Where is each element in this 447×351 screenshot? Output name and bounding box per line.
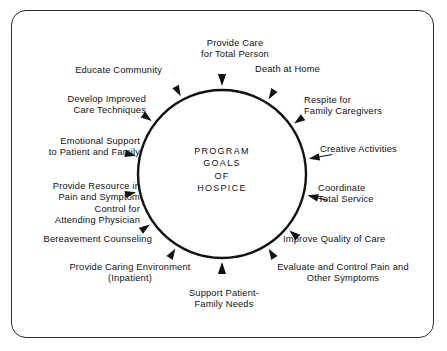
arrow-provide-care-total-person [218,74,226,86]
goal-label-provide-resource-pain-symptom: Provide Resource in Pain and Symptom Con… [20,181,140,227]
goal-label-death-at-home: Death at Home [255,64,365,75]
arrow-educate-community [172,85,180,96]
goal-label-improve-quality-of-care: Improve Quality of Care [283,234,425,245]
goal-label-emotional-support-patient-family: Emotional Support to Patient and Family [14,136,140,159]
arrow-evaluate-control-pain [269,249,278,260]
center-label: PROGRAM GOALS OF HOSPICE [162,145,282,195]
goal-label-provide-care-total-person: Provide Care for Total Person [180,38,290,61]
goal-label-respite-family-caregivers: Respite for Family Caregivers [304,95,420,118]
goal-label-creative-activities: Creative Activities [320,144,432,155]
goal-label-develop-improved-care-techniques: Develop Improved Care Techniques [28,94,146,117]
arrow-support-patient-family-needs [218,262,226,274]
arrow-bereavement-counseling [139,224,150,233]
goal-label-coordinate-total-service: Coordinate Total Service [318,183,422,206]
hospice-goals-figure: PROGRAM GOALS OF HOSPICE Provide Care fo… [0,0,447,351]
arrow-provide-caring-environment [166,249,175,260]
goal-label-support-patient-family-needs: Support Patient- Family Needs [168,288,280,311]
arrow-death-at-home [269,88,278,99]
goal-label-bereavement-counseling: Bereavement Counseling [20,234,152,245]
goal-label-provide-caring-environment: Provide Caring Environment (Inpatient) [45,262,215,285]
goal-label-evaluate-control-pain: Evaluate and Control Pain and Other Symp… [250,262,436,285]
arrow-creative-activities [309,153,320,160]
goal-label-educate-community: Educate Community [50,65,162,76]
